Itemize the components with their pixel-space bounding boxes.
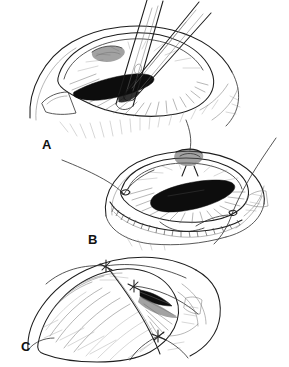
panel-label-a: A [42, 138, 51, 151]
suture-thread-left-b [62, 160, 154, 195]
figure-container: A B C [0, 0, 289, 367]
panel-label-c: C [21, 340, 30, 353]
panel-label-b: B [88, 233, 97, 246]
retractor-a [42, 92, 76, 114]
central-suture-knot-b [174, 149, 203, 176]
suture-knot-1-c [46, 260, 186, 284]
panel-c [0, 240, 289, 367]
suture-thread-top-b [186, 120, 191, 150]
